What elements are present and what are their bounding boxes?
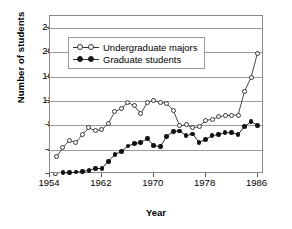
data-point-undergraduate [171,108,176,113]
data-point-undergraduate [236,113,241,118]
data-point-graduate [145,136,150,141]
data-point-graduate [113,152,118,157]
x-tick-label: 1986 [237,177,277,188]
chart-figure: Number of students 04080120160200240 195… [0,0,292,229]
data-point-undergraduate [249,75,254,80]
filled-circle-marker-icon [73,54,99,64]
data-point-undergraduate [255,51,260,56]
data-point-graduate [138,140,143,145]
data-point-graduate [216,132,221,137]
data-point-graduate [236,132,241,137]
data-point-graduate [67,170,72,175]
open-circle-marker-icon [73,42,99,52]
data-point-undergraduate [145,100,150,105]
data-point-graduate [93,166,98,171]
x-tick-label: 1954 [29,177,69,188]
x-tick-label: 1970 [133,177,173,188]
data-point-graduate [255,123,260,128]
data-point-undergraduate [67,138,72,143]
data-point-graduate [100,166,105,171]
x-axis-title: Year [49,207,263,218]
legend-label-undergraduate-majors: Undergraduate majors [103,42,198,53]
data-point-undergraduate [80,132,85,137]
data-point-undergraduate [242,89,247,94]
data-point-undergraduate [223,113,228,118]
data-point-graduate [229,130,234,135]
data-point-graduate [87,168,92,173]
data-point-graduate [190,132,195,137]
data-point-graduate [164,134,169,139]
data-point-undergraduate [158,100,163,105]
data-point-graduate [158,144,163,149]
legend-item-undergraduate-majors: Undergraduate majors [73,41,198,53]
data-point-undergraduate [229,113,234,118]
data-point-graduate [177,129,182,134]
data-point-graduate [151,143,156,148]
data-point-graduate [61,170,66,175]
data-point-undergraduate [197,124,202,129]
data-point-undergraduate [106,121,111,126]
data-point-graduate [203,137,208,142]
data-point-graduate [197,140,202,145]
legend-item-graduate-students: Graduate students [73,53,198,65]
x-tick-label: 1962 [81,177,121,188]
data-point-graduate [106,159,111,164]
data-point-graduate [119,149,124,154]
data-point-graduate [132,141,137,146]
chart-legend: Undergraduate majors Graduate students [68,37,205,69]
legend-label-graduate-students: Graduate students [103,54,181,65]
data-point-graduate [242,124,247,129]
data-point-undergraduate [184,122,189,127]
data-point-undergraduate [210,117,215,122]
x-tick-label: 1978 [185,177,225,188]
data-point-graduate [171,129,176,134]
data-point-graduate [80,169,85,174]
